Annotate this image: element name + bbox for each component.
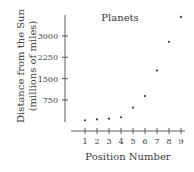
data-point — [132, 106, 134, 108]
data-point — [96, 118, 98, 120]
y-tick-label: 750 — [43, 96, 58, 105]
x-tick-label: 8 — [166, 137, 171, 146]
data-points — [84, 16, 182, 122]
x-tick-label: 3 — [106, 137, 111, 146]
data-point — [144, 95, 146, 97]
x-tick-label: 2 — [94, 137, 99, 146]
x-tick-label: 1 — [82, 137, 87, 146]
x-tick-label: 6 — [142, 137, 147, 146]
data-point — [168, 41, 170, 43]
chart-title: Planets — [101, 12, 138, 23]
data-point — [120, 116, 122, 118]
x-tick-label: 5 — [130, 137, 135, 146]
x-tick-label: 9 — [178, 137, 183, 146]
data-point — [180, 16, 182, 18]
y-tick-label: 2250 — [38, 53, 58, 62]
x-tick-label: 4 — [118, 137, 123, 146]
y-axis-label-main: Distance from the Sun — [15, 8, 26, 122]
data-point — [108, 118, 110, 120]
y-ticks: 750150022503000 — [38, 32, 68, 105]
x-axis-label: Position Number — [85, 151, 171, 162]
y-tick-label: 3000 — [38, 32, 58, 41]
y-tick-label: 1500 — [38, 75, 58, 84]
y-axis-label: Distance from the Sun (millions of miles… — [15, 8, 38, 122]
data-point — [156, 69, 158, 71]
data-point — [84, 119, 86, 121]
scatter-chart: Planets Distance from the Sun (millions … — [0, 0, 194, 172]
y-axis-label-units: (millions of miles) — [27, 21, 38, 112]
x-tick-label: 7 — [154, 137, 159, 146]
